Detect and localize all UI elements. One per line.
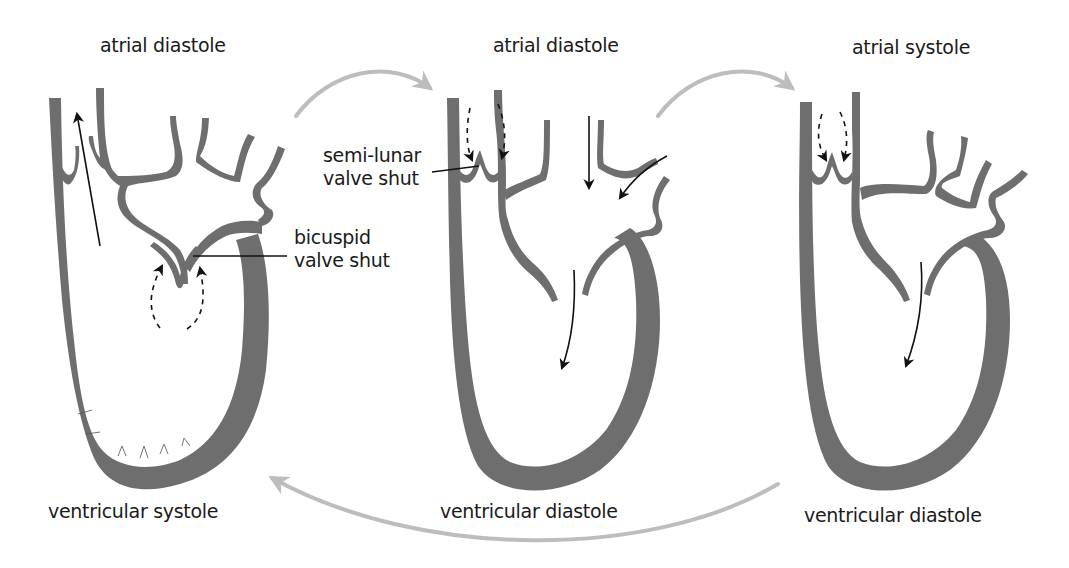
- callout-bicuspid: bicuspid valve shut: [294, 226, 390, 272]
- cardiac-cycle-diagram: [0, 0, 1069, 568]
- heart-center: [432, 90, 670, 491]
- label-left-atrial: atrial diastole: [100, 36, 226, 55]
- heart-right: [799, 92, 1028, 491]
- dashed-arrow-icon: [187, 268, 203, 329]
- callout-bicuspid-line1: bicuspid: [294, 226, 390, 249]
- flow-arrow-up-icon: [77, 114, 100, 246]
- callout-bicuspid-line2: valve shut: [294, 249, 390, 272]
- label-center-ventricular: ventricular diastole: [440, 502, 618, 521]
- label-left-ventricular: ventricular systole: [48, 502, 218, 521]
- label-right-ventricular: ventricular diastole: [804, 506, 982, 525]
- dashed-arrow-icon: [151, 266, 162, 328]
- ventricle-wall-left: [49, 98, 269, 489]
- label-right-atrial: atrial systole: [852, 38, 970, 57]
- callout-semilunar-line1: semi-lunar: [323, 144, 421, 167]
- callout-semilunar: semi-lunar valve shut: [323, 144, 421, 190]
- heart-left: [49, 88, 287, 489]
- cycle-arrow-top-2-icon: [658, 72, 792, 116]
- callout-semilunar-line2: valve shut: [323, 167, 421, 190]
- label-center-atrial: atrial diastole: [493, 36, 619, 55]
- cycle-arrow-top-1-icon: [296, 72, 430, 116]
